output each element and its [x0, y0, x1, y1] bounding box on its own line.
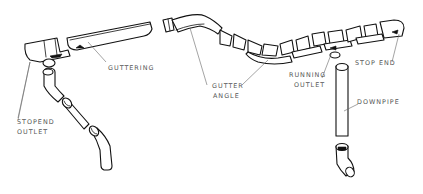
- guttering-length-part: [67, 22, 152, 50]
- label-downpipe: DOWNPIPE: [357, 98, 400, 106]
- downpipe-shoe-part: [336, 144, 356, 179]
- downpipe-part: [336, 64, 348, 137]
- label-stopend-outlet: STOPEND OUTLET: [17, 118, 58, 136]
- label-stop-end: STOP END: [355, 59, 396, 67]
- label-guttering: GUTTERING: [108, 64, 154, 72]
- label-running-outlet: RUNNING OUTLET: [289, 71, 329, 89]
- guttering-diagram: GUTTERING GUTTER ANGLE RUNNING OUTLET ST…: [0, 0, 423, 194]
- gutter-angle-part: [163, 15, 222, 34]
- label-gutter-angle: GUTTER ANGLE: [212, 82, 247, 100]
- gutter-chain-parts: [220, 20, 404, 64]
- stopend-outlet-part: [25, 38, 70, 62]
- offset-pipe-parts: [43, 59, 112, 170]
